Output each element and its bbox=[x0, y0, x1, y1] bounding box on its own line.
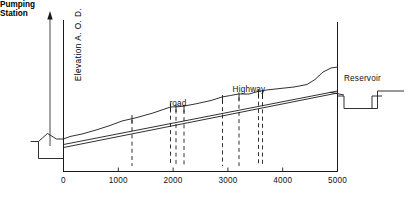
x-tick-label-4000: 4000 bbox=[273, 176, 292, 185]
x-tick-label-2000: 2000 bbox=[164, 176, 183, 185]
figure-canvas: Elevation A. O. D. Pumping Station road … bbox=[0, 0, 413, 199]
y-caption-arrow bbox=[47, 11, 52, 146]
y-axis-label: Elevation A. O. D. bbox=[74, 0, 83, 93]
ground-profile-line bbox=[64, 67, 338, 139]
longitudinal-section-drawing bbox=[0, 0, 413, 199]
highway-crossing-label: Highway bbox=[233, 85, 266, 94]
x-tick-label-5000: 5000 bbox=[328, 176, 347, 185]
pumping-station-structure bbox=[31, 134, 64, 159]
x-tick-label-3000: 3000 bbox=[218, 176, 237, 185]
reservoir-label: Reservoir bbox=[344, 74, 381, 83]
plot-axes bbox=[64, 20, 338, 172]
pipeline-and-hydraulic-gradient bbox=[64, 91, 338, 148]
x-tick-label-1000: 1000 bbox=[109, 176, 128, 185]
reservoir-structure bbox=[330, 91, 404, 109]
road-crossing-label: road bbox=[169, 99, 186, 108]
x-tick-label-0: 0 bbox=[61, 176, 66, 185]
x-axis-ticks bbox=[64, 168, 338, 172]
